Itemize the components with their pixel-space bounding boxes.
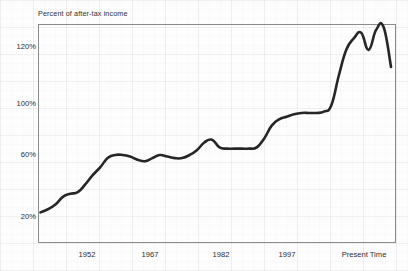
x-axis: 1952196719821997Present Time xyxy=(0,0,408,271)
x-tick-label: 1982 xyxy=(213,250,230,259)
x-tick-label: Present Time xyxy=(342,250,387,259)
x-tick-label: 1997 xyxy=(279,250,296,259)
chart-container: Percent of after-tax income 120%100%60%2… xyxy=(0,0,408,271)
x-tick-label: 1952 xyxy=(79,250,96,259)
x-tick-label: 1967 xyxy=(142,250,159,259)
